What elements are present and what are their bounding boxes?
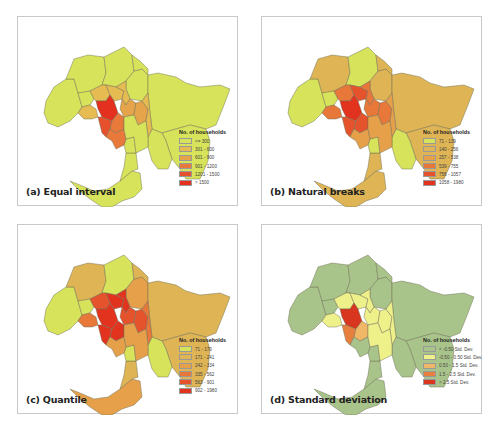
region-northeast <box>392 73 474 133</box>
legend-swatch <box>423 180 436 186</box>
legend-title: No. of households <box>423 337 482 343</box>
legend-label: 563 - 901 <box>195 380 214 385</box>
map-panel-quantile: No. of households 71 - 170171 - 241242 -… <box>17 224 238 414</box>
legend-swatch <box>179 363 192 369</box>
panel-caption: (d) Standard deviation <box>270 394 387 405</box>
panel-caption: (c) Quantile <box>26 394 87 405</box>
region-innerE1 <box>364 307 380 325</box>
legend-swatch <box>179 146 192 152</box>
legend-swatch <box>423 371 436 377</box>
map-panel-natural-breaks: No. of households 71 - 139140 - 256257 -… <box>261 16 482 206</box>
legend-label: 901 - 1200 <box>195 164 217 169</box>
legend-item: 71 - 170 <box>179 345 226 353</box>
region-innerE1 <box>364 99 380 117</box>
legend-label: 242 - 334 <box>195 363 214 368</box>
legend-item: 1201 - 1500 <box>179 170 226 178</box>
legend-label: 71 - 139 <box>439 139 456 144</box>
legend-swatch <box>423 354 436 360</box>
legend: No. of households 71 - 139140 - 256257 -… <box>423 129 470 187</box>
legend-item: 756 - 1057 <box>423 170 470 178</box>
legend-label: 601 - 900 <box>195 155 214 160</box>
legend-label: 140 - 256 <box>439 147 458 152</box>
legend-label: > 1500 <box>195 180 209 185</box>
legend-label: 902 - 1980 <box>195 388 217 393</box>
legend-swatch <box>423 138 436 144</box>
legend-item: 257 - 538 <box>423 154 470 162</box>
region-innerE1 <box>120 307 136 325</box>
legend-label: 1058 - 1980 <box>439 180 464 185</box>
legend-item: 1.5 - 2.5 Std. Dev. <box>423 370 482 378</box>
legend-item: > 2.5 Std. Dev. <box>423 378 482 386</box>
legend-label: 756 - 1057 <box>439 172 461 177</box>
legend-swatch <box>179 155 192 161</box>
legend-swatch <box>423 163 436 169</box>
legend: No. of households 71 - 170171 - 241242 -… <box>179 337 226 395</box>
legend-item: 335 - 562 <box>179 370 226 378</box>
legend-item: 171 - 241 <box>179 353 226 361</box>
panel-caption: (b) Natural breaks <box>270 186 365 197</box>
legend-label: 0.50 - 1.5 Std. Dev. <box>439 363 478 368</box>
legend-swatch <box>423 171 436 177</box>
legend-swatch <box>179 346 192 352</box>
legend-label: <= 300 <box>195 139 209 144</box>
legend-item: 539 - 755 <box>423 162 470 170</box>
legend-swatch <box>179 371 192 377</box>
region-northeast <box>148 73 230 133</box>
legend-item: 71 - 139 <box>423 137 470 145</box>
legend-item: 563 - 901 <box>179 378 226 386</box>
legend-title: No. of households <box>179 337 226 343</box>
legend-item: < -0.50 Std. Dev. <box>423 345 482 353</box>
legend-swatch <box>179 138 192 144</box>
legend-swatch <box>179 171 192 177</box>
map-panel-equal-interval: No. of households <= 300301 - 600601 - 9… <box>17 16 238 206</box>
legend-label: 335 - 562 <box>195 372 214 377</box>
legend-item: 601 - 900 <box>179 154 226 162</box>
legend-item: > 1500 <box>179 178 226 186</box>
legend-swatch <box>423 363 436 369</box>
legend-label: > 2.5 Std. Dev. <box>439 380 469 385</box>
legend-label: 301 - 600 <box>195 147 214 152</box>
panel-caption: (a) Equal interval <box>26 186 115 197</box>
legend-item: 140 - 256 <box>423 145 470 153</box>
legend-swatch <box>179 388 192 394</box>
legend-label: 257 - 538 <box>439 155 458 160</box>
legend-item: 901 - 1200 <box>179 162 226 170</box>
legend-title: No. of households <box>179 129 226 135</box>
legend-item: 902 - 1980 <box>179 386 226 394</box>
legend-swatch <box>179 163 192 169</box>
legend-title: No. of households <box>423 129 470 135</box>
legend-item: 0.50 - 1.5 Std. Dev. <box>423 362 482 370</box>
legend-label: -0.50 - 0.50 Std. Dev. <box>439 355 482 360</box>
legend-label: < -0.50 Std. Dev. <box>439 347 473 352</box>
region-northeast <box>392 281 474 341</box>
legend-label: 1201 - 1500 <box>195 172 220 177</box>
region-innerE1 <box>120 99 136 117</box>
legend-item: <= 300 <box>179 137 226 145</box>
region-northeast <box>148 281 230 341</box>
legend: No. of households < -0.50 Std. Dev.-0.50… <box>423 337 482 386</box>
legend: No. of households <= 300301 - 600601 - 9… <box>179 129 226 187</box>
legend-item: 301 - 600 <box>179 145 226 153</box>
legend-swatch <box>179 379 192 385</box>
legend-swatch <box>423 146 436 152</box>
legend-swatch <box>179 180 192 186</box>
legend-label: 71 - 170 <box>195 347 212 352</box>
legend-label: 539 - 755 <box>439 164 458 169</box>
legend-label: 1.5 - 2.5 Std. Dev. <box>439 372 476 377</box>
map-panel-standard-deviation: No. of households < -0.50 Std. Dev.-0.50… <box>261 224 482 414</box>
choropleth-map <box>262 225 483 415</box>
legend-swatch <box>423 155 436 161</box>
legend-item: 242 - 334 <box>179 362 226 370</box>
legend-swatch <box>179 354 192 360</box>
legend-item: -0.50 - 0.50 Std. Dev. <box>423 353 482 361</box>
legend-swatch <box>423 346 436 352</box>
legend-item: 1058 - 1980 <box>423 178 470 186</box>
legend-label: 171 - 241 <box>195 355 214 360</box>
legend-swatch <box>423 379 436 385</box>
